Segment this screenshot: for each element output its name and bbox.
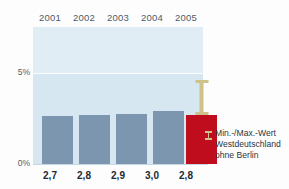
axis-baseline [33, 164, 208, 165]
legend-text: Min.-/Max.-Wert Westdeutschland ohne Ber… [215, 128, 289, 162]
y-axis-label-5-percent: 5% [2, 67, 30, 77]
x-axis-label-2001: 2001 [33, 9, 67, 26]
legend-line-3: ohne Berlin [215, 150, 289, 161]
value-label-2001: 2,7 [33, 168, 67, 184]
bar-2001 [42, 116, 73, 164]
value-label-2005: 2,8 [169, 168, 203, 184]
legend: Min.-/Max.-Wert Westdeutschland ohne Ber… [205, 128, 289, 162]
legend-line-1: Min.-/Max.-Wert [215, 128, 289, 139]
bar-2003 [116, 114, 147, 165]
error-bar-stem [200, 80, 203, 115]
x-axis-label-2002: 2002 [67, 9, 101, 26]
error-bar-min-max-icon [195, 80, 208, 115]
bar-2002 [79, 115, 110, 164]
x-axis-label-2003: 2003 [101, 9, 135, 26]
value-label-2002: 2,8 [67, 168, 101, 184]
value-label-2003: 2,9 [101, 168, 135, 184]
legend-icon-cap-bottom [205, 138, 212, 140]
bar-value-labels: 2,7 2,8 2,9 3,0 2,8 [33, 168, 203, 184]
x-axis-label-2004: 2004 [135, 9, 169, 26]
bar-chart: 2001 2002 2003 2004 2005 [0, 0, 289, 189]
y-axis-label-0-percent: 0% [2, 158, 30, 168]
x-axis-label-2005: 2005 [169, 9, 203, 26]
bar-group [33, 27, 203, 164]
x-axis-year-labels: 2001 2002 2003 2004 2005 [33, 9, 203, 26]
error-bar-cap-min [195, 112, 208, 115]
legend-line-2: Westdeutschland [215, 139, 289, 150]
legend-icon-cap-top [205, 131, 212, 133]
error-bar-legend-icon [205, 131, 212, 140]
error-bar-cap-max [195, 80, 208, 83]
bar-2004 [153, 111, 184, 164]
value-label-2004: 3,0 [135, 168, 169, 184]
